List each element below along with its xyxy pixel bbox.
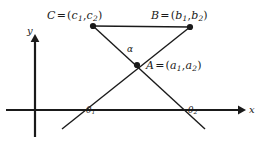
angle-theta2-label: θ2 <box>188 106 197 115</box>
y-axis <box>31 34 40 137</box>
y-axis-label: y <box>27 26 33 36</box>
point-a-name: A <box>146 59 154 72</box>
point-b-close-paren: ) <box>203 9 208 22</box>
point-c-marker <box>90 23 96 29</box>
angle-alpha-label: α <box>127 45 133 54</box>
angle-theta1-label: θ1 <box>86 106 95 115</box>
x-axis-label: x <box>249 105 255 115</box>
point-b-marker <box>187 24 193 30</box>
angle-theta1-sub: 1 <box>91 108 95 115</box>
line-b-through-a <box>62 27 190 129</box>
point-a-label: A=(a1,a2) <box>146 60 202 72</box>
point-a-coord1: a <box>170 59 177 72</box>
segment-cb <box>93 26 190 27</box>
point-b-label: B=(b1,b2) <box>151 10 208 22</box>
angle-alpha-glyph: α <box>127 44 133 54</box>
point-c-close-paren: ) <box>98 9 103 22</box>
point-c-name: C <box>47 9 56 22</box>
angle-theta2-sub: 2 <box>193 108 197 115</box>
point-a-equals: = <box>154 59 165 72</box>
geometry-figure: C=(c1,c2) B=(b1,b2) A=(a1,a2) α θ1 θ2 y … <box>0 0 266 142</box>
point-a-marker <box>134 62 140 68</box>
figure-canvas <box>0 0 266 142</box>
point-c-label: C=(c1,c2) <box>47 10 102 22</box>
point-a-close-paren: ) <box>197 59 202 72</box>
point-c-equals: = <box>56 9 67 22</box>
x-axis <box>6 106 246 115</box>
x-axis-arrowhead <box>238 106 246 115</box>
point-b-equals: = <box>159 9 170 22</box>
